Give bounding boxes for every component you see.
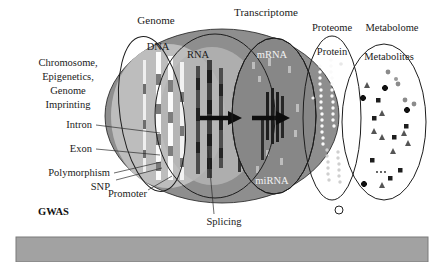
label-gwas: GWAS (38, 206, 69, 217)
callout-label-intron: Intron (66, 119, 92, 130)
callout-label-promoter: Promoter (108, 188, 148, 199)
callout-label-polymorphism: Polymorphism (48, 167, 110, 178)
label-transcriptome: Transcriptome (234, 6, 298, 18)
label-dna: DNA (147, 41, 170, 52)
desc-line-2: Genome (50, 85, 86, 96)
label-metabolites: Metabolites (364, 51, 414, 62)
figure-canvas: Genome Transcriptome Proteome Metabolome… (0, 0, 444, 262)
label-metabolome: Metabolome (365, 22, 418, 33)
label-mrna: mRNA (257, 49, 288, 60)
genome-description-block: Chromosome, Epigenetics, Genome Imprinti… (38, 57, 97, 110)
bottom-gray-bar (16, 237, 428, 262)
callout-label-exon: Exon (70, 143, 93, 154)
desc-line-1: Epigenetics, (42, 71, 94, 82)
omics-diagram: Genome Transcriptome Proteome Metabolome… (0, 0, 444, 262)
label-genome: Genome (137, 14, 174, 26)
label-splicing: Splicing (206, 216, 242, 227)
desc-line-0: Chromosome, (38, 57, 97, 68)
desc-line-3: Imprinting (46, 99, 92, 110)
label-mirna: miRNA (255, 175, 289, 186)
free-molecule-circle (335, 206, 343, 214)
metabolite-symbols (360, 70, 416, 188)
label-protein: Protein (317, 46, 348, 57)
label-rna: RNA (187, 49, 210, 60)
label-proteome: Proteome (312, 22, 353, 33)
